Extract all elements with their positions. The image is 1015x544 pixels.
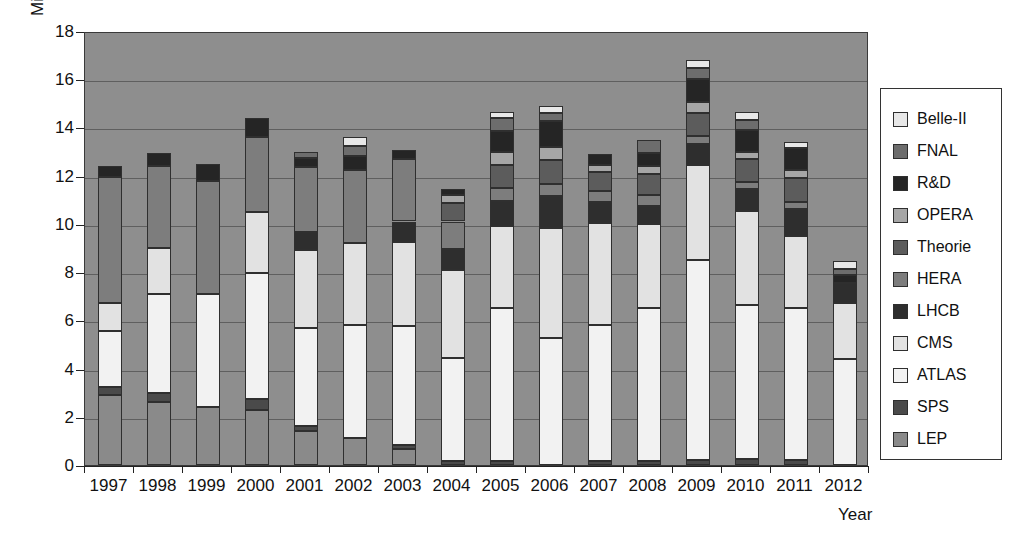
bar-segment-2008-opera[interactable] — [637, 166, 661, 174]
bar-2007[interactable] — [588, 31, 612, 465]
bar-segment-1999-lep[interactable] — [196, 407, 220, 465]
bar-segment-2000-cms[interactable] — [245, 212, 269, 273]
bar-segment-1997-hera[interactable] — [98, 177, 122, 304]
bar-segment-2008-r-d[interactable] — [637, 153, 661, 166]
bar-segment-1998-atlas[interactable] — [147, 294, 171, 393]
bar-2010[interactable] — [735, 31, 759, 465]
bar-segment-2004-atlas[interactable] — [441, 358, 465, 462]
bar-segment-1997-sps[interactable] — [98, 387, 122, 395]
bar-segment-2010-belle-ii[interactable] — [735, 112, 759, 120]
bar-segment-2003-hera[interactable] — [392, 159, 416, 222]
bar-segment-2000-hera[interactable] — [245, 137, 269, 212]
bar-1998[interactable] — [147, 31, 171, 465]
bar-segment-2011-lhcb[interactable] — [784, 209, 808, 236]
bar-segment-2007-lhcb[interactable] — [588, 202, 612, 222]
bar-2011[interactable] — [784, 31, 808, 465]
bar-segment-2006-atlas[interactable] — [539, 338, 563, 465]
bar-segment-2006-hera[interactable] — [539, 184, 563, 196]
bar-segment-2011-theorie[interactable] — [784, 178, 808, 202]
bar-2005[interactable] — [490, 31, 514, 465]
legend-item-atlas[interactable]: ATLAS — [893, 359, 1001, 391]
bar-segment-2004-opera[interactable] — [441, 195, 465, 203]
bar-segment-2006-opera[interactable] — [539, 147, 563, 160]
bar-segment-2010-theorie[interactable] — [735, 159, 759, 182]
bar-segment-2011-sps[interactable] — [784, 460, 808, 465]
bar-segment-2011-r-d[interactable] — [784, 148, 808, 170]
bar-segment-2004-cms[interactable] — [441, 270, 465, 358]
bar-segment-2005-hera[interactable] — [490, 188, 514, 201]
bar-segment-2001-cms[interactable] — [294, 250, 318, 327]
bar-segment-2010-atlas[interactable] — [735, 305, 759, 459]
bar-segment-2002-fnal[interactable] — [343, 146, 367, 157]
bar-segment-2010-cms[interactable] — [735, 211, 759, 305]
bar-1997[interactable] — [98, 31, 122, 465]
bar-segment-2004-lhcb[interactable] — [441, 249, 465, 269]
bar-segment-2001-sps[interactable] — [294, 426, 318, 431]
bar-segment-2004-r-d[interactable] — [441, 189, 465, 195]
bar-1999[interactable] — [196, 31, 220, 465]
bar-segment-2003-lep[interactable] — [392, 449, 416, 465]
bar-segment-2003-atlas[interactable] — [392, 326, 416, 444]
bar-segment-2007-cms[interactable] — [588, 223, 612, 325]
bar-segment-2008-hera[interactable] — [637, 195, 661, 206]
bar-segment-2004-hera[interactable] — [441, 222, 465, 250]
legend-item-lhcb[interactable]: LHCB — [893, 295, 1001, 327]
bar-segment-2006-fnal[interactable] — [539, 113, 563, 121]
bar-segment-2011-belle-ii[interactable] — [784, 142, 808, 148]
bar-segment-2007-sps[interactable] — [588, 461, 612, 465]
bar-segment-2005-belle-ii[interactable] — [490, 112, 514, 118]
bar-segment-2006-belle-ii[interactable] — [539, 106, 563, 113]
bar-segment-2009-sps[interactable] — [686, 460, 710, 465]
bar-segment-1999-atlas[interactable] — [196, 294, 220, 407]
bar-segment-2009-hera[interactable] — [686, 136, 710, 144]
bar-segment-2001-fnal[interactable] — [294, 152, 318, 158]
bar-segment-1997-lep[interactable] — [98, 395, 122, 465]
bar-segment-1998-hera[interactable] — [147, 166, 171, 248]
bar-segment-2011-atlas[interactable] — [784, 308, 808, 460]
bar-segment-2004-theorie[interactable] — [441, 203, 465, 221]
bar-segment-2009-atlas[interactable] — [686, 260, 710, 460]
bar-segment-2000-lep[interactable] — [245, 410, 269, 465]
bar-segment-1999-r-d[interactable] — [196, 164, 220, 181]
bar-segment-2005-opera[interactable] — [490, 152, 514, 165]
bar-segment-2002-belle-ii[interactable] — [343, 137, 367, 145]
bar-segment-2008-lhcb[interactable] — [637, 206, 661, 224]
bar-segment-2000-r-d[interactable] — [245, 118, 269, 137]
bar-2006[interactable] — [539, 31, 563, 465]
bar-segment-2004-sps[interactable] — [441, 461, 465, 465]
bar-segment-2012-atlas[interactable] — [833, 359, 857, 465]
bar-segment-2009-belle-ii[interactable] — [686, 60, 710, 68]
bar-segment-2000-sps[interactable] — [245, 399, 269, 410]
legend-item-belle-ii[interactable]: Belle-II — [893, 103, 1001, 135]
bar-segment-2008-theorie[interactable] — [637, 174, 661, 194]
bar-segment-2010-hera[interactable] — [735, 182, 759, 189]
bar-segment-2007-r-d[interactable] — [588, 154, 612, 165]
bar-segment-2005-r-d[interactable] — [490, 131, 514, 151]
bar-segment-2009-theorie[interactable] — [686, 113, 710, 136]
bar-segment-2001-atlas[interactable] — [294, 328, 318, 427]
bar-segment-2011-cms[interactable] — [784, 236, 808, 308]
bar-segment-2007-hera[interactable] — [588, 191, 612, 202]
bar-segment-2003-r-d[interactable] — [392, 150, 416, 158]
bar-segment-1997-r-d[interactable] — [98, 166, 122, 177]
bar-segment-2001-lep[interactable] — [294, 431, 318, 465]
bar-segment-2000-atlas[interactable] — [245, 273, 269, 398]
bar-segment-2010-fnal[interactable] — [735, 120, 759, 130]
bar-segment-2002-cms[interactable] — [343, 243, 367, 325]
bar-2012[interactable] — [833, 31, 857, 465]
bar-segment-1998-lep[interactable] — [147, 402, 171, 465]
bar-segment-1999-hera[interactable] — [196, 181, 220, 294]
bar-segment-2007-atlas[interactable] — [588, 325, 612, 461]
bar-2009[interactable] — [686, 31, 710, 465]
bar-segment-2005-fnal[interactable] — [490, 118, 514, 131]
bar-segment-2002-lep[interactable] — [343, 438, 367, 465]
bar-segment-1997-cms[interactable] — [98, 303, 122, 331]
bar-segment-2001-lhcb[interactable] — [294, 232, 318, 250]
bar-segment-2005-atlas[interactable] — [490, 308, 514, 461]
legend-item-fnal[interactable]: FNAL — [893, 135, 1001, 167]
legend-item-hera[interactable]: HERA — [893, 263, 1001, 295]
bar-segment-2011-hera[interactable] — [784, 202, 808, 209]
bar-segment-1998-sps[interactable] — [147, 393, 171, 403]
bar-segment-2009-r-d[interactable] — [686, 79, 710, 102]
bar-segment-2008-sps[interactable] — [637, 461, 661, 465]
